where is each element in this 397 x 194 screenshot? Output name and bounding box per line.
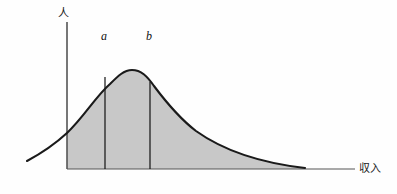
distribution-chart — [0, 0, 397, 194]
figure-canvas: 人 収入 a b — [0, 0, 397, 194]
marker-label-b: b — [146, 30, 152, 42]
x-axis-label: 収入 — [359, 163, 381, 174]
y-axis-label: 人 — [58, 8, 69, 19]
marker-label-a: a — [101, 30, 107, 42]
shaded-area-under-curve — [67, 70, 305, 169]
